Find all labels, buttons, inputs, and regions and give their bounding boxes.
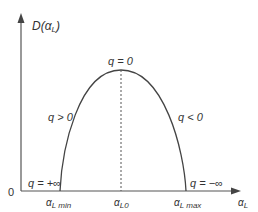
tick-center-sub: L0 bbox=[120, 201, 129, 210]
tick-center-symbol: α bbox=[114, 197, 120, 208]
tick-label-max: αL max bbox=[174, 198, 201, 208]
tick-max-sub: L max bbox=[180, 201, 202, 210]
y-label-main: D( bbox=[32, 19, 45, 33]
tick-min-symbol: α bbox=[46, 197, 52, 208]
origin-label: 0 bbox=[8, 186, 14, 198]
y-axis-label: D(αL) bbox=[32, 20, 60, 32]
x-label-sub: L bbox=[244, 201, 248, 210]
tick-min-sub: L min bbox=[52, 201, 71, 210]
x-label-symbol: α bbox=[238, 197, 244, 208]
y-label-close: ) bbox=[56, 19, 60, 33]
y-axis-arrow-icon bbox=[18, 13, 25, 23]
tick-label-min: αL min bbox=[46, 198, 71, 208]
right-end-label: q = −∞ bbox=[190, 178, 223, 189]
tick-max-symbol: α bbox=[174, 197, 180, 208]
tick-label-center: αL0 bbox=[114, 198, 129, 208]
left-branch-label: q > 0 bbox=[48, 112, 73, 123]
x-axis-arrow-icon bbox=[231, 188, 241, 195]
right-branch-label: q < 0 bbox=[178, 112, 203, 123]
x-axis-label: αL bbox=[238, 198, 248, 208]
y-label-sub: L bbox=[52, 25, 56, 34]
left-end-label: q = +∞ bbox=[28, 178, 61, 189]
peak-label: q = 0 bbox=[108, 56, 133, 67]
curve bbox=[60, 70, 186, 191]
y-label-symbol: α bbox=[45, 19, 52, 33]
